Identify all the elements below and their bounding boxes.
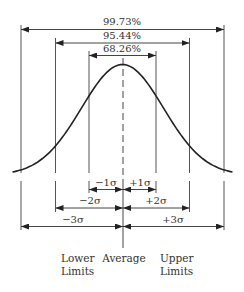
- minus-2-sigma-label: −2σ: [79, 195, 101, 206]
- plus-3-sigma-label: +3σ: [162, 214, 184, 225]
- lower-limits-label-line2: Limits: [61, 265, 94, 277]
- bottom-captions: Lower Limits Average Upper Limits: [61, 252, 195, 277]
- range-99-73-label: 99.73%: [103, 16, 141, 27]
- lower-limits-label-line1: Lower: [61, 252, 95, 264]
- range-68-26-label: 68.26%: [103, 43, 141, 54]
- minus-3-sigma-label: −3σ: [62, 214, 84, 225]
- upper-limits-label-line1: Upper: [160, 252, 195, 264]
- normal-distribution-diagram: 99.73% 95.44% 68.26% −1σ +1σ −2σ +2σ −3σ…: [0, 0, 244, 292]
- minus-1-sigma-label: −1σ: [95, 177, 117, 188]
- upper-limits-label-line2: Limits: [160, 265, 193, 277]
- coverage-dimensions: 99.73% 95.44% 68.26%: [21, 16, 224, 56]
- plus-1-sigma-label: +1σ: [129, 177, 151, 188]
- plus-2-sigma-label: +2σ: [145, 195, 167, 206]
- range-95-44-label: 95.44%: [103, 30, 141, 41]
- average-label: Average: [101, 252, 146, 264]
